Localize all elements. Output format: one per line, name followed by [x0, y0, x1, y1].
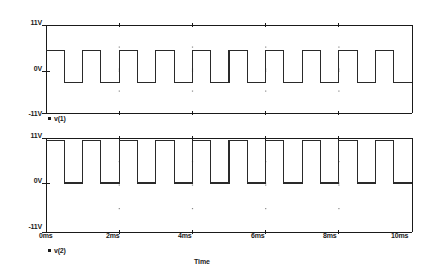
xtick-label-10ms: 10ms: [391, 232, 408, 239]
plot-panel-v1: 11V 0V -11V v(1): [0, 0, 421, 125]
ytick-label-v2-mid: 0V: [0, 177, 42, 184]
legend-v1[interactable]: v(1): [48, 115, 66, 122]
ytick-label-v2-bottom: -11V: [0, 223, 42, 230]
xtick-label-8ms: 8ms: [323, 232, 336, 239]
xtick-label-0ms: 0ms: [39, 232, 52, 239]
legend-swatch-icon-v2: [48, 249, 51, 252]
legend-swatch-icon-v1: [48, 117, 51, 120]
legend-label-v2: v(2): [54, 247, 66, 254]
xtick-label-4ms: 4ms: [178, 232, 191, 239]
xtick-label-6ms: 6ms: [251, 232, 264, 239]
ytick-label-v1-top: 11V: [0, 19, 42, 26]
plot-panel-v2: 11V 0V -11V 0ms 2ms 4ms 6ms 8ms 10ms v(2…: [0, 125, 421, 276]
x-axis-title: Time: [194, 258, 210, 265]
ytick-label-v2-top: 11V: [0, 132, 42, 139]
ytick-label-v1-mid: 0V: [0, 65, 42, 72]
plot-canvas-v1: [0, 0, 421, 125]
waveform-figure: 11V 0V -11V v(1) 11V 0V -11V 0ms 2ms 4ms…: [0, 0, 421, 276]
xtick-label-2ms: 2ms: [106, 232, 119, 239]
ytick-label-v1-bottom: -11V: [0, 110, 42, 117]
legend-v2[interactable]: v(2): [48, 247, 66, 254]
legend-label-v1: v(1): [54, 115, 66, 122]
